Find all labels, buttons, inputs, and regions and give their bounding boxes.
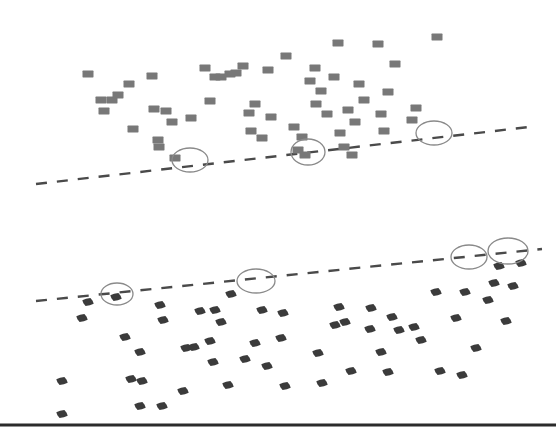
data-point-hexagon [222, 381, 233, 389]
square-glyph [170, 155, 181, 162]
data-point-square [376, 111, 387, 118]
data-point-square [153, 137, 164, 144]
hexagon-glyph [119, 333, 130, 341]
data-point-hexagon [119, 333, 130, 341]
data-point-hexagon [215, 318, 226, 326]
hexagon-glyph [225, 290, 236, 298]
square-glyph [154, 144, 165, 151]
data-point-hexagon [365, 304, 376, 312]
data-point-hexagon [450, 314, 461, 322]
top-panel-annotations [172, 121, 452, 172]
data-point-hexagon [456, 371, 467, 379]
square-glyph [354, 81, 365, 88]
data-point-hexagon [194, 307, 205, 315]
data-point-hexagon [375, 348, 386, 356]
hexagon-glyph [488, 279, 499, 287]
data-point-hexagon [82, 298, 93, 306]
scatter-plot-canvas [0, 0, 556, 438]
hexagon-glyph [345, 367, 356, 375]
hexagon-glyph [312, 349, 323, 357]
hexagon-glyph [459, 288, 470, 296]
square-glyph [83, 71, 94, 78]
data-point-hexagon [500, 317, 511, 325]
data-point-square [339, 144, 350, 151]
hexagon-glyph [364, 325, 375, 333]
data-point-square [263, 67, 274, 74]
square-glyph [379, 128, 390, 135]
data-point-hexagon [434, 367, 445, 375]
hexagon-glyph [177, 387, 188, 395]
hexagon-glyph [277, 309, 288, 317]
hexagon-glyph [256, 306, 267, 314]
square-glyph [289, 124, 300, 131]
data-point-hexagon [156, 402, 167, 410]
square-glyph [305, 78, 316, 85]
data-point-hexagon [134, 402, 145, 410]
square-glyph [335, 130, 346, 137]
data-point-hexagon [386, 313, 397, 321]
scatter-figure: Two stacked scatter plots with dashed up… [0, 0, 556, 438]
hexagon-glyph [215, 318, 226, 326]
data-point-square [161, 108, 172, 115]
highlight-ellipse [237, 269, 275, 293]
square-glyph [231, 70, 242, 77]
square-glyph [390, 61, 401, 68]
data-point-square [310, 65, 321, 72]
hexagon-glyph [507, 282, 518, 290]
data-point-square [246, 128, 257, 135]
data-point-hexagon [382, 368, 393, 376]
data-point-hexagon [204, 337, 215, 345]
top-panel-points [83, 34, 443, 162]
data-point-hexagon [261, 362, 272, 370]
hexagon-glyph [275, 334, 286, 342]
data-point-square [266, 114, 277, 121]
square-glyph [153, 137, 164, 144]
data-point-square [333, 40, 344, 47]
hexagon-glyph [125, 375, 136, 383]
data-point-hexagon [207, 358, 218, 366]
data-point-hexagon [393, 326, 404, 334]
square-glyph [300, 152, 311, 159]
bottom-panel-points [56, 259, 526, 418]
hexagon-glyph [209, 306, 220, 314]
data-point-hexagon [76, 314, 87, 322]
data-point-square [311, 101, 322, 108]
data-point-square [316, 88, 327, 95]
bottom-panel-group [36, 238, 542, 418]
data-point-square [154, 144, 165, 151]
data-point-square [113, 92, 124, 99]
square-glyph [250, 101, 261, 108]
data-point-square [407, 117, 418, 124]
hexagon-glyph [470, 344, 481, 352]
square-glyph [329, 74, 340, 81]
square-glyph [432, 34, 443, 41]
data-point-square [350, 119, 361, 126]
data-point-square [200, 65, 211, 72]
hexagon-glyph [500, 317, 511, 325]
data-point-square [359, 97, 370, 104]
hexagon-glyph [76, 314, 87, 322]
data-point-square [257, 135, 268, 142]
square-glyph [186, 115, 197, 122]
trend-line-dashed [36, 127, 529, 184]
hexagon-glyph [279, 382, 290, 390]
square-glyph [347, 152, 358, 159]
square-glyph [373, 41, 384, 48]
hexagon-glyph [154, 301, 165, 309]
hexagon-glyph [82, 298, 93, 306]
square-glyph [266, 114, 277, 121]
data-point-hexagon [249, 339, 260, 347]
square-glyph [257, 135, 268, 142]
square-glyph [246, 128, 257, 135]
data-point-hexagon [415, 336, 426, 344]
data-point-hexagon [470, 344, 481, 352]
data-point-hexagon [345, 367, 356, 375]
hexagon-glyph [239, 355, 250, 363]
square-glyph [339, 144, 350, 151]
hexagon-glyph [156, 402, 167, 410]
data-point-hexagon [482, 296, 493, 304]
square-glyph [113, 92, 124, 99]
data-point-square [205, 98, 216, 105]
hexagon-glyph [482, 296, 493, 304]
data-point-hexagon [239, 355, 250, 363]
